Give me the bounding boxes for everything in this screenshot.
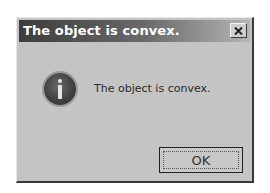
information-icon (44, 73, 76, 105)
info-bar (58, 85, 62, 99)
info-dot (58, 79, 62, 83)
close-button[interactable] (230, 23, 247, 38)
ok-button-label: OK (192, 153, 211, 168)
close-icon (234, 27, 243, 35)
dialog-title: The object is convex. (23, 23, 180, 38)
title-bar[interactable]: The object is convex. (19, 20, 250, 42)
message-dialog: The object is convex. The object is conv… (16, 17, 254, 183)
dialog-message: The object is convex. (94, 82, 210, 95)
ok-button[interactable]: OK (159, 147, 243, 173)
